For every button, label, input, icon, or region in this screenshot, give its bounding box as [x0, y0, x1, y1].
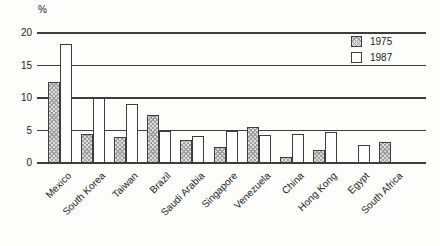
bar-1975-taiwan — [114, 137, 126, 163]
bar-1987-singapore — [226, 131, 238, 164]
category-label-china: China — [279, 170, 305, 196]
y-tick-label-10: 10 — [6, 93, 32, 103]
category-label-taiwan: Taiwan — [110, 170, 140, 200]
bar-1987-taiwan — [126, 104, 138, 163]
gridline-15 — [37, 65, 426, 67]
y-tick-label-0: 0 — [6, 158, 32, 168]
gridline-20 — [37, 32, 426, 34]
legend-item-1987: 1987 — [351, 52, 392, 63]
bar-1975-china — [280, 157, 292, 164]
bar-1987-venezuela — [259, 135, 271, 163]
legend-swatch-1987 — [351, 52, 362, 63]
legend-label-1987: 1987 — [370, 52, 392, 63]
y-tick-label-20: 20 — [6, 28, 32, 38]
bar-1987-mexico — [60, 44, 72, 163]
bar-1975-hong-kong — [313, 150, 325, 163]
bar-1975-brazil — [147, 115, 159, 163]
bar-1975-venezuela — [247, 127, 259, 163]
bar-chart-figure: % 19751987 05101520MexicoSouth KoreaTaiw… — [0, 0, 440, 246]
legend-item-1975: 1975 — [351, 36, 392, 47]
bar-1975-saudi-arabia — [180, 140, 192, 163]
category-label-brazil: Brazil — [148, 170, 173, 195]
bar-1975-south-korea — [81, 134, 93, 163]
bar-1987-brazil — [159, 131, 171, 164]
bar-1975-mexico — [48, 82, 60, 163]
category-label-mexico: Mexico — [44, 170, 74, 200]
legend: 19751987 — [351, 36, 392, 68]
bar-1975-singapore — [214, 147, 226, 163]
y-axis-unit-label: % — [38, 4, 47, 15]
legend-swatch-1975 — [351, 36, 362, 47]
bar-1975-south-africa — [379, 142, 391, 163]
y-tick-label-5: 5 — [6, 126, 32, 136]
y-tick-label-15: 15 — [6, 61, 32, 71]
bar-1987-egypt — [358, 145, 370, 163]
bar-1987-saudi-arabia — [192, 136, 204, 163]
legend-label-1975: 1975 — [370, 36, 392, 47]
bar-1987-south-korea — [93, 98, 105, 163]
bar-1987-hong-kong — [325, 132, 337, 163]
category-label-egypt: Egypt — [346, 170, 372, 196]
bar-1987-china — [292, 134, 304, 163]
